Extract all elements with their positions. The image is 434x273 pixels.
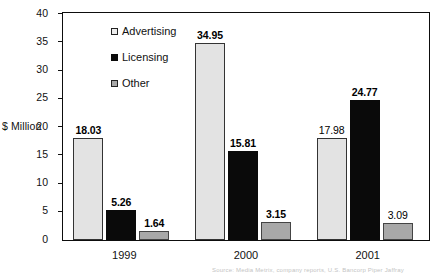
bar-value-label: 3.09 [373,209,423,221]
bar [261,222,291,240]
legend-item-advertising[interactable]: Advertising [111,25,176,37]
y-tick-label: 0 [0,234,54,244]
legend-item-label: Advertising [122,25,176,37]
bar [228,151,258,240]
bar [383,223,413,240]
bar [139,231,169,240]
bar-value-label: 3.15 [251,208,301,220]
bar-value-label: 5.26 [96,196,146,208]
bar-value-label: 24.77 [340,86,390,98]
source-note: Source: Media Metrix, company reports, U… [212,267,434,273]
legend-item-label: Other [122,77,150,89]
y-tick-label: 20 [0,121,54,131]
bar [73,138,103,240]
y-tick-label: 10 [0,177,54,187]
bar-value-label: 18.03 [63,124,113,136]
x-category-label: 2001 [307,249,429,261]
chart-legend: AdvertisingLicensingOther [111,25,241,105]
y-tick-label: 35 [0,36,54,46]
legend-item-licensing[interactable]: Licensing [111,51,168,63]
bar-value-label: 1.64 [129,217,179,229]
legend-swatch-icon [111,80,118,87]
bar-value-label: 15.81 [218,137,268,149]
legend-swatch-icon [111,28,118,35]
y-tick-label: 30 [0,64,54,74]
legend-swatch-icon [111,54,118,61]
x-category-label: 1999 [64,249,186,261]
y-tick-label: 15 [0,149,54,159]
x-category-label: 2000 [185,249,307,261]
bar-chart: $ Million 0510152025303540 18.035.261.64… [0,0,434,273]
bar [317,138,347,240]
legend-item-other[interactable]: Other [111,77,150,89]
y-tick-label: 5 [0,205,54,215]
y-tick-label: 25 [0,92,54,102]
y-tick-label: 40 [0,8,54,18]
legend-item-label: Licensing [122,51,168,63]
plot-area: 18.035.261.6434.9515.813.1517.9824.773.0… [62,12,430,241]
